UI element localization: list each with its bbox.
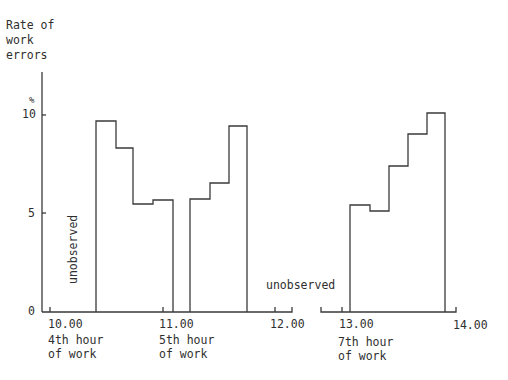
y-tick-0: 0 [28, 304, 35, 319]
unobserved-annotation-left: unobserved [66, 215, 80, 284]
y-unit-label: % [29, 93, 34, 108]
hour-label-4-line1: 4th hour [48, 333, 103, 348]
bars-block-3 [350, 113, 445, 312]
unobserved-annotation-middle: unobserved [266, 278, 335, 293]
hour-label-7-line1: 7th hour [338, 335, 393, 350]
x-axis-segment-1 [42, 307, 292, 312]
y-axis-title-line3: errors [6, 48, 48, 63]
bars-block-1 [96, 121, 173, 312]
y-axis-title-line1: Rate of [6, 18, 54, 33]
hour-label-7-line2: of work [338, 349, 386, 364]
x-tick-13: 13.00 [339, 317, 374, 332]
y-tick-10: 10 [22, 107, 36, 122]
bars-block-2 [190, 126, 247, 312]
x-tick-11: 11.00 [159, 317, 194, 332]
x-tick-10: 10.00 [48, 317, 83, 332]
x-tick-14: 14.00 [453, 318, 488, 333]
y-tick-5: 5 [28, 206, 35, 221]
hour-label-5-line2: of work [159, 347, 207, 362]
x-tick-12: 12.00 [270, 317, 305, 332]
hour-label-4-line2: of work [48, 347, 96, 362]
y-axis-title-line2: work [6, 33, 34, 48]
hour-label-5-line1: 5th hour [159, 333, 214, 348]
x-axis-segment-2 [321, 307, 456, 312]
